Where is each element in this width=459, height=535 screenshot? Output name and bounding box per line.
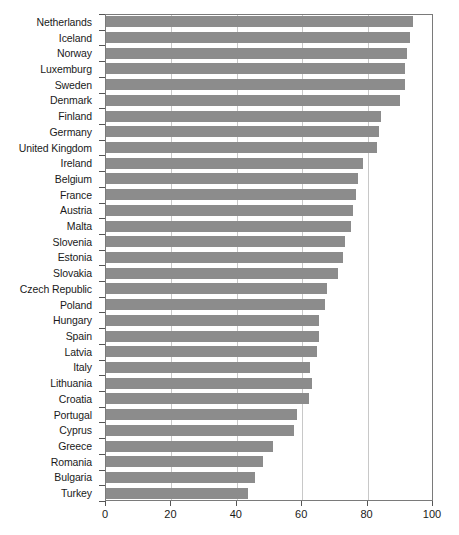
y-axis-tick	[99, 312, 105, 313]
y-axis-tick	[99, 187, 105, 188]
bar	[106, 362, 310, 373]
bar-row: Estonia	[0, 250, 459, 266]
bar	[106, 16, 413, 27]
y-axis-tick	[99, 61, 105, 62]
y-axis-tick	[99, 45, 105, 46]
bar	[106, 221, 351, 232]
category-label: Turkey	[61, 488, 92, 499]
bar-row: France	[0, 187, 459, 203]
y-axis-tick	[99, 470, 105, 471]
y-axis-tick	[99, 155, 105, 156]
bar	[106, 252, 343, 263]
bar-row: Turkey	[0, 485, 459, 501]
category-label: Italy	[73, 362, 92, 373]
x-axis-tick	[301, 501, 302, 506]
y-axis-tick	[99, 391, 105, 392]
y-axis-tick	[99, 375, 105, 376]
bar-row: Finland	[0, 108, 459, 124]
y-axis-tick	[99, 93, 105, 94]
bar-row: Greece	[0, 438, 459, 454]
y-axis-tick	[99, 234, 105, 235]
bar	[106, 409, 297, 420]
bar	[106, 32, 410, 43]
category-label: Norway	[57, 48, 92, 59]
category-label: Germany	[50, 127, 92, 138]
bar	[106, 63, 405, 74]
bar-rows: NetherlandsIcelandNorwayLuxemburgSwedenD…	[0, 14, 459, 501]
y-axis-tick	[99, 265, 105, 266]
y-axis-tick	[99, 454, 105, 455]
category-label: Austria	[60, 205, 92, 216]
bar	[106, 205, 353, 216]
bar	[106, 236, 345, 247]
bar	[106, 111, 381, 122]
bar	[106, 346, 317, 357]
bar	[106, 48, 407, 59]
bar	[106, 299, 325, 310]
category-label: Croatia	[59, 394, 92, 405]
category-label: Ireland	[61, 158, 92, 169]
bar	[106, 189, 356, 200]
y-axis-tick	[99, 297, 105, 298]
category-label: Slovakia	[53, 268, 92, 279]
bar	[106, 393, 309, 404]
x-axis-tick	[105, 501, 106, 506]
y-axis-tick	[99, 328, 105, 329]
bar	[106, 158, 363, 169]
bar-row: Czech Republic	[0, 281, 459, 297]
bar-row: Italy	[0, 360, 459, 376]
bar-row: Slovenia	[0, 234, 459, 250]
bar	[106, 456, 263, 467]
category-label: Latvia	[65, 346, 92, 357]
y-axis-tick	[99, 124, 105, 125]
bar-row: Iceland	[0, 30, 459, 46]
y-axis-tick	[99, 438, 105, 439]
x-axis-tick-label: 80	[360, 508, 372, 520]
y-axis-tick	[99, 281, 105, 282]
category-label: Slovenia	[53, 237, 92, 248]
bar	[106, 142, 377, 153]
y-axis-tick	[99, 360, 105, 361]
x-axis-tick-label: 0	[102, 508, 108, 520]
x-axis-tick-label: 60	[295, 508, 307, 520]
bar-row: Cyprus	[0, 422, 459, 438]
bar-row: Luxemburg	[0, 61, 459, 77]
category-label: Cyprus	[59, 425, 92, 436]
category-label: Iceland	[59, 32, 92, 43]
category-label: Luxemburg	[40, 64, 92, 75]
bar-row: Hungary	[0, 312, 459, 328]
bar	[106, 425, 294, 436]
bar-row: Croatia	[0, 391, 459, 407]
category-label: Estonia	[58, 252, 92, 263]
bar	[106, 472, 255, 483]
category-label: Romania	[51, 456, 92, 467]
y-axis-tick	[99, 77, 105, 78]
category-label: Czech Republic	[20, 284, 92, 295]
category-label: Poland	[60, 299, 92, 310]
bar	[106, 315, 319, 326]
bar-row: Belgium	[0, 171, 459, 187]
bar-row: Bulgaria	[0, 470, 459, 486]
y-axis-tick	[99, 344, 105, 345]
bar-row: Austria	[0, 203, 459, 219]
y-axis-tick	[99, 14, 105, 15]
category-label: Spain	[66, 331, 92, 342]
bar	[106, 488, 248, 499]
bar	[106, 79, 405, 90]
y-axis-tick	[99, 422, 105, 423]
bar-row: Poland	[0, 297, 459, 313]
category-label: Belgium	[55, 174, 92, 185]
bar-chart: NetherlandsIcelandNorwayLuxemburgSwedenD…	[0, 0, 459, 535]
category-label: Bulgaria	[54, 472, 92, 483]
bar-row: Malta	[0, 218, 459, 234]
y-axis-tick	[99, 171, 105, 172]
bar-row: Lithuania	[0, 375, 459, 391]
y-axis-tick	[99, 218, 105, 219]
bar-row: Romania	[0, 454, 459, 470]
bar	[106, 283, 327, 294]
bar-row: Netherlands	[0, 14, 459, 30]
y-axis-tick	[99, 203, 105, 204]
category-label: Portugal	[54, 409, 92, 420]
y-axis-tick	[99, 407, 105, 408]
category-label: Sweden	[55, 79, 92, 90]
